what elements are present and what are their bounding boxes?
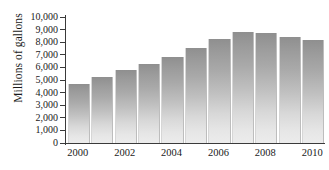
x-axis-tick-label: 2006: [198, 147, 238, 159]
y-axis-tick-label: 2,000: [18, 113, 58, 123]
y-axis-tick-label-wrap: 4,000: [18, 88, 58, 98]
y-axis-tick-label-wrap: 3,000: [18, 100, 58, 110]
bar: [279, 37, 301, 143]
y-axis-tick-label-wrap: 0: [18, 138, 58, 148]
y-axis-tick-label-wrap: 10,000: [18, 12, 58, 22]
x-axis-tick-label: 2002: [105, 147, 145, 159]
x-axis-line: [65, 143, 325, 144]
y-axis-tick-label-wrap: 1,000: [18, 125, 58, 135]
bar: [91, 77, 113, 143]
y-axis-tick-label: 8,000: [18, 37, 58, 47]
bar: [232, 32, 254, 143]
y-axis-tick-label-wrap: 8,000: [18, 37, 58, 47]
y-axis-tick-label: 3,000: [18, 100, 58, 110]
bar: [255, 33, 277, 143]
bar: [68, 84, 90, 143]
x-axis-tick-label: 2000: [58, 147, 98, 159]
bar: [115, 70, 137, 143]
x-axis-tick-label: 2010: [292, 147, 329, 159]
y-axis-tick-label: 9,000: [18, 25, 58, 35]
y-axis-tick-label-wrap: 9,000: [18, 25, 58, 35]
y-axis-tick-label: 10,000: [18, 12, 58, 22]
y-axis-tick-label-wrap: 6,000: [18, 62, 58, 72]
chart-title: [0, 0, 329, 3]
bar: [161, 57, 183, 143]
y-axis-tick-label: 5,000: [18, 75, 58, 85]
bar-chart: Millions of gallons 10,0009,0008,0007,00…: [0, 0, 329, 170]
bar: [185, 48, 207, 143]
y-axis-tick-label: 6,000: [18, 62, 58, 72]
y-axis-tick-label: 4,000: [18, 88, 58, 98]
x-axis-tick-label: 2008: [245, 147, 285, 159]
bar: [302, 40, 324, 143]
y-axis-tick-label: 0: [18, 138, 58, 148]
y-axis-tick-label: 1,000: [18, 125, 58, 135]
y-axis-tick-label-wrap: 5,000: [18, 75, 58, 85]
y-axis-tick-label-wrap: 7,000: [18, 50, 58, 60]
y-axis-tick-label-wrap: 2,000: [18, 113, 58, 123]
y-axis-tick-label: 7,000: [18, 50, 58, 60]
bar: [138, 64, 160, 143]
bar: [208, 39, 230, 143]
x-axis-tick-label: 2004: [152, 147, 192, 159]
plot-area: [66, 17, 324, 143]
